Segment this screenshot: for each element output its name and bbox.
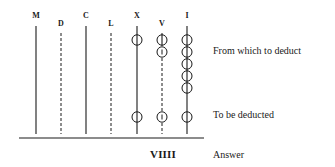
counter-icon <box>182 71 192 81</box>
counter-icon <box>182 59 192 69</box>
counter-icon <box>157 47 167 57</box>
column-label-V: V <box>159 19 165 28</box>
answer-value: VIIII <box>150 148 176 160</box>
counter-icon <box>182 47 192 57</box>
counter-icon <box>157 112 167 122</box>
column-label-X: X <box>134 11 140 20</box>
roman-abacus-subtraction-diagram: MDCLXVI From which to deduct To be deduc… <box>0 0 335 167</box>
column-label-M: M <box>32 11 40 20</box>
counter-icon <box>132 112 142 122</box>
counter-icon <box>182 83 192 93</box>
counter-icon <box>157 35 167 45</box>
column-label-C: C <box>83 11 89 20</box>
column-label-L: L <box>108 19 113 28</box>
answer-row-label: Answer <box>213 149 244 160</box>
column-label-I: I <box>185 11 188 20</box>
counter-icon <box>182 35 192 45</box>
minuend-row-label: From which to deduct <box>213 45 301 56</box>
counter-icon <box>132 35 142 45</box>
column-label-D: D <box>58 19 64 28</box>
counter-icon <box>182 112 192 122</box>
abacus-lines-and-counters <box>0 0 335 167</box>
subtrahend-row-label: To be deducted <box>213 109 274 120</box>
